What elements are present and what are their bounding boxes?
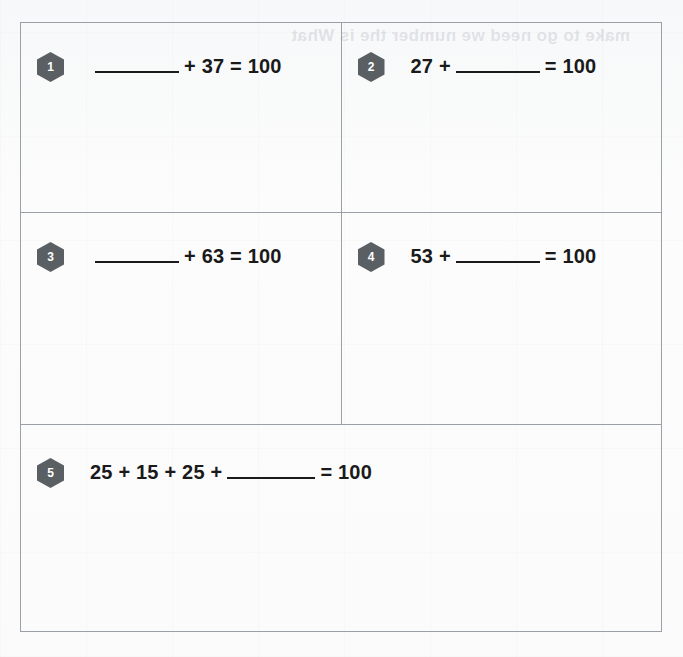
problem-cell-1[interactable]: 1 + 37 = 100 bbox=[21, 23, 342, 212]
answer-blank-1[interactable] bbox=[95, 54, 179, 73]
answer-blank-4[interactable] bbox=[456, 244, 540, 263]
problem-number-label: 1 bbox=[47, 61, 54, 73]
equation-text-2a: 27 + bbox=[411, 51, 451, 81]
problem-cell-4[interactable]: 4 53 + = 100 bbox=[342, 213, 662, 424]
problem-number-badge-4: 4 bbox=[358, 242, 385, 272]
problem-equation-1: + 37 = 100 bbox=[90, 51, 282, 81]
grid-row-3: 5 25 + 15 + 25 + = 100 bbox=[21, 425, 661, 631]
answer-blank-5[interactable] bbox=[227, 460, 315, 479]
problem-cell-5[interactable]: 5 25 + 15 + 25 + = 100 bbox=[21, 425, 661, 631]
grid-row-2: 3 + 63 = 100 4 53 + = 100 bbox=[21, 213, 661, 425]
equation-text-5a: 25 + 15 + 25 + bbox=[90, 457, 222, 487]
problem-number-badge-5: 5 bbox=[37, 458, 64, 488]
problem-number-badge-3: 3 bbox=[37, 242, 64, 272]
problem-equation-3: + 63 = 100 bbox=[90, 241, 282, 271]
problem-number-badge-1: 1 bbox=[37, 52, 64, 82]
equation-text-3: + 63 = 100 bbox=[184, 241, 282, 271]
equation-text-2b: = 100 bbox=[545, 51, 597, 81]
problem-number-label: 3 bbox=[47, 251, 54, 263]
equation-text-5b: = 100 bbox=[320, 457, 372, 487]
problem-cell-3[interactable]: 3 + 63 = 100 bbox=[21, 213, 342, 424]
grid-row-1: 1 + 37 = 100 2 27 + = 100 bbox=[21, 23, 661, 213]
problem-equation-2: 27 + = 100 bbox=[411, 51, 597, 81]
problem-number-label: 4 bbox=[368, 251, 375, 263]
problem-number-label: 5 bbox=[47, 467, 54, 479]
problem-equation-5: 25 + 15 + 25 + = 100 bbox=[90, 457, 372, 487]
answer-blank-3[interactable] bbox=[95, 244, 179, 263]
problem-cell-2[interactable]: 2 27 + = 100 bbox=[342, 23, 662, 212]
equation-text-1: + 37 = 100 bbox=[184, 51, 282, 81]
problem-number-badge-2: 2 bbox=[358, 52, 385, 82]
answer-blank-2[interactable] bbox=[456, 54, 540, 73]
worksheet-problem-grid: 1 + 37 = 100 2 27 + = 100 3 bbox=[20, 22, 662, 632]
problem-equation-4: 53 + = 100 bbox=[411, 241, 597, 271]
problem-number-label: 2 bbox=[368, 61, 375, 73]
equation-text-4a: 53 + bbox=[411, 241, 451, 271]
equation-text-4b: = 100 bbox=[545, 241, 597, 271]
